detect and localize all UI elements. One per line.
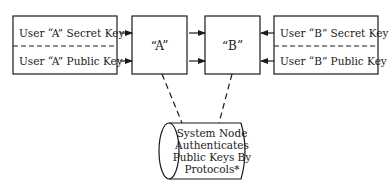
system-node-line-1: System Node bbox=[177, 127, 248, 139]
user-b-secret-key-label: User “B” Secret Key bbox=[280, 27, 388, 39]
system-node-cylinder: System Node Authenticates Public Keys By… bbox=[159, 123, 251, 179]
system-node-line-3: Public Keys By bbox=[173, 151, 252, 163]
dashed-connector bbox=[162, 74, 182, 123]
node-b: “B” bbox=[205, 16, 260, 74]
user-b-public-key-label: User “B” Public Key bbox=[280, 55, 387, 67]
user-a-secret-key-label: User “A” Secret Key bbox=[19, 27, 124, 39]
system-node-line-4: Protocols* bbox=[184, 163, 240, 175]
user-a-key-box: User “A” Secret Key User “A” Public Key bbox=[13, 16, 124, 74]
key-distribution-diagram: User “A” Secret Key User “A” Public Key … bbox=[0, 0, 390, 190]
dashed-connector bbox=[219, 74, 232, 123]
user-a-public-key-label: User “A” Public Key bbox=[19, 55, 123, 67]
node-b-label: “B” bbox=[222, 39, 243, 53]
node-a-label: “A” bbox=[151, 39, 169, 53]
system-node-line-2: Authenticates bbox=[174, 139, 249, 151]
user-b-key-box: User “B” Secret Key User “B” Public Key bbox=[274, 16, 388, 74]
node-a: “A” bbox=[132, 16, 187, 74]
